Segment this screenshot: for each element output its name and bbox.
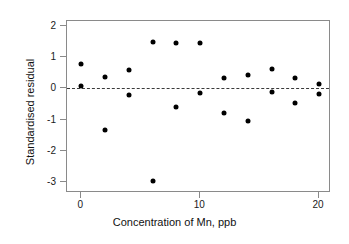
x-axis-tick bbox=[199, 192, 200, 198]
data-point bbox=[245, 72, 250, 77]
x-axis-tick bbox=[80, 192, 81, 198]
data-point bbox=[126, 68, 131, 73]
data-point bbox=[221, 75, 226, 80]
data-point bbox=[221, 111, 226, 116]
data-point bbox=[103, 74, 108, 79]
data-point bbox=[245, 119, 250, 124]
data-point bbox=[174, 105, 179, 110]
y-axis-tick-label: 0 bbox=[16, 82, 56, 93]
y-axis-tick bbox=[60, 87, 66, 88]
y-axis-tick bbox=[60, 181, 66, 182]
plot-frame bbox=[66, 20, 330, 192]
y-axis-tick bbox=[60, 150, 66, 151]
x-axis-tick bbox=[318, 192, 319, 198]
x-axis-tick-label: 20 bbox=[298, 199, 338, 210]
data-point bbox=[198, 91, 203, 96]
data-point bbox=[293, 100, 298, 105]
data-point bbox=[103, 127, 108, 132]
y-axis-tick-label: 2 bbox=[16, 19, 56, 30]
data-point bbox=[126, 92, 131, 97]
data-point bbox=[79, 61, 84, 66]
data-point bbox=[269, 67, 274, 72]
data-point bbox=[269, 89, 274, 94]
data-point bbox=[150, 40, 155, 45]
data-point bbox=[174, 40, 179, 45]
x-axis-tick-label: 10 bbox=[179, 199, 219, 210]
y-axis-tick-label: 1 bbox=[16, 50, 56, 61]
y-axis-tick bbox=[60, 25, 66, 26]
y-axis-tick-label: -2 bbox=[16, 144, 56, 155]
y-axis-tick-label: -1 bbox=[16, 113, 56, 124]
x-axis-tick-label: 0 bbox=[60, 199, 100, 210]
data-point bbox=[198, 41, 203, 46]
data-point bbox=[150, 178, 155, 183]
data-point bbox=[79, 83, 84, 88]
zero-reference-line bbox=[67, 88, 329, 89]
data-point bbox=[293, 76, 298, 81]
x-axis-title: Concentration of Mn, ppb bbox=[0, 216, 349, 228]
y-axis-tick bbox=[60, 56, 66, 57]
y-axis-tick bbox=[60, 119, 66, 120]
y-axis-tick-label: -3 bbox=[16, 176, 56, 187]
data-point bbox=[317, 81, 322, 86]
data-point bbox=[317, 92, 322, 97]
y-axis-title: Standardised residual bbox=[24, 27, 36, 197]
residual-plot-figure: 210-1-2-3 01020 Standardised residual Co… bbox=[0, 0, 349, 244]
